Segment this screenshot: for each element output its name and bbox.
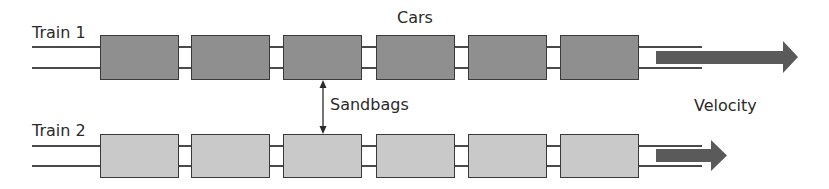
- train-2-velocity-arrow-icon: [656, 140, 727, 171]
- train-1-velocity-arrow-icon: [656, 41, 798, 73]
- arrows-layer: [0, 0, 829, 189]
- train-velocity-diagram: Train 1 Train 2 Cars Sandbags Velocity: [0, 0, 829, 189]
- sandbags-double-arrow-icon: [320, 80, 327, 134]
